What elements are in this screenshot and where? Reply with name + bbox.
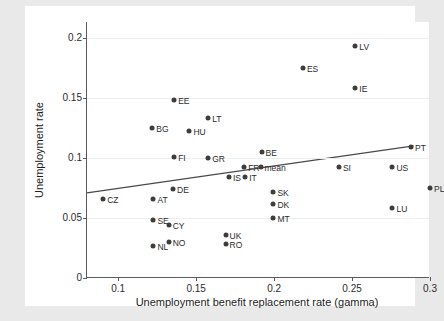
data-point-fr bbox=[242, 164, 247, 169]
data-point-label-lv: LV bbox=[359, 43, 369, 52]
data-point-label-at: AT bbox=[157, 196, 167, 205]
data-point-ro bbox=[223, 241, 228, 246]
x-tick-mark bbox=[196, 277, 197, 281]
x-tick-label: 0.3 bbox=[423, 283, 437, 294]
y-tick-label: 0.1 bbox=[68, 152, 82, 163]
y-tick-mark bbox=[83, 158, 87, 159]
data-point-se bbox=[151, 217, 156, 222]
data-point-mt bbox=[271, 215, 276, 220]
gridline bbox=[87, 158, 429, 159]
data-point-label-cz: CZ bbox=[107, 196, 118, 205]
data-point-fi bbox=[172, 154, 177, 159]
data-point-label-be: BE bbox=[266, 149, 277, 158]
x-tick-mark bbox=[274, 277, 275, 281]
gridline bbox=[87, 38, 429, 39]
x-tick-label: 0.15 bbox=[186, 283, 205, 294]
data-point-label-is: IS bbox=[233, 174, 241, 183]
y-tick-label: 0.05 bbox=[63, 212, 82, 223]
data-point-lv bbox=[353, 43, 358, 48]
x-tick-mark bbox=[118, 277, 119, 281]
y-tick-label: 0 bbox=[76, 272, 82, 283]
data-point-ie bbox=[353, 85, 358, 90]
y-tick-mark bbox=[83, 218, 87, 219]
data-point-pt bbox=[408, 144, 413, 149]
y-axis-label: Unemployment rate bbox=[33, 102, 45, 198]
x-axis-label: Unemployment benefit replacement rate (g… bbox=[136, 296, 379, 308]
y-tick-mark bbox=[83, 38, 87, 39]
y-tick-label: 0.2 bbox=[68, 32, 82, 43]
data-point-label-mt: MT bbox=[277, 215, 289, 224]
x-tick-label: 0.2 bbox=[267, 283, 281, 294]
data-point-label-mean: mean bbox=[265, 164, 286, 173]
gridline bbox=[87, 218, 429, 219]
data-point-pl bbox=[428, 185, 433, 190]
data-point-dk bbox=[271, 201, 276, 206]
data-point-at bbox=[151, 196, 156, 201]
data-point-lt bbox=[206, 115, 211, 120]
data-point-mean bbox=[258, 164, 263, 169]
data-point-label-lt: LT bbox=[212, 115, 221, 124]
data-point-us bbox=[390, 164, 395, 169]
data-point-si bbox=[336, 164, 341, 169]
data-point-label-no: NO bbox=[173, 239, 186, 248]
data-point-sk bbox=[271, 189, 276, 194]
data-point-cy bbox=[166, 222, 171, 227]
data-point-nl bbox=[151, 243, 156, 248]
data-point-no bbox=[166, 239, 171, 244]
data-point-label-ie: IE bbox=[359, 85, 367, 94]
data-point-label-ro: RO bbox=[230, 241, 243, 250]
data-point-label-it: IT bbox=[249, 174, 257, 183]
data-point-label-dk: DK bbox=[277, 201, 289, 210]
x-tick-label: 0.25 bbox=[342, 283, 361, 294]
chart-canvas: 00.050.10.150.20.10.150.20.250.3CZATDESE… bbox=[25, 6, 415, 306]
data-point-is bbox=[226, 174, 231, 179]
data-point-lu bbox=[390, 205, 395, 210]
y-tick-label: 0.15 bbox=[63, 92, 82, 103]
data-point-label-fi: FI bbox=[178, 154, 186, 163]
data-point-label-pl: PL bbox=[434, 185, 444, 194]
data-point-be bbox=[259, 149, 264, 154]
x-tick-mark bbox=[352, 277, 353, 281]
data-point-label-cy: CY bbox=[173, 222, 185, 231]
x-tick-label: 0.1 bbox=[111, 283, 125, 294]
data-point-uk bbox=[223, 232, 228, 237]
data-point-label-si: SI bbox=[343, 164, 351, 173]
x-tick-mark bbox=[430, 277, 431, 281]
data-point-label-us: US bbox=[396, 164, 408, 173]
y-tick-mark bbox=[83, 98, 87, 99]
data-point-de bbox=[171, 186, 176, 191]
y-tick-mark bbox=[83, 278, 87, 279]
data-point-cz bbox=[101, 196, 106, 201]
data-point-label-bg: BG bbox=[156, 125, 168, 134]
gridline bbox=[87, 98, 429, 99]
data-point-label-de: DE bbox=[177, 186, 189, 195]
data-point-hu bbox=[187, 128, 192, 133]
data-point-gr bbox=[206, 155, 211, 160]
data-point-bg bbox=[150, 125, 155, 130]
data-point-label-es: ES bbox=[307, 65, 318, 74]
data-point-it bbox=[243, 174, 248, 179]
data-point-label-gr: GR bbox=[212, 155, 225, 164]
data-point-es bbox=[300, 65, 305, 70]
data-point-label-lu: LU bbox=[396, 205, 407, 214]
data-point-ee bbox=[172, 97, 177, 102]
data-point-label-pt: PT bbox=[415, 144, 426, 153]
plot-area: 00.050.10.150.20.10.150.20.250.3CZATDESE… bbox=[86, 22, 429, 278]
data-point-label-ee: EE bbox=[178, 97, 189, 106]
data-point-label-sk: SK bbox=[277, 189, 288, 198]
data-point-label-hu: HU bbox=[193, 128, 205, 137]
